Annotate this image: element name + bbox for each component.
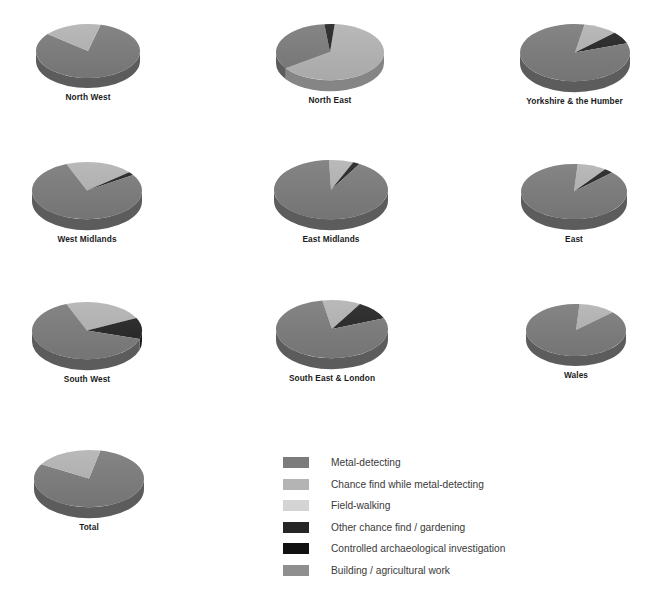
pie-graphic — [34, 22, 142, 90]
legend-item: Field-walking — [283, 495, 623, 517]
pie-label: South West — [28, 374, 146, 384]
pie-graphic — [272, 158, 390, 232]
pie-sheen-overlay — [276, 24, 384, 80]
pie-cell: North East — [272, 22, 388, 105]
legend-item: Chance find while metal-detecting — [283, 474, 623, 496]
pie-svg — [519, 162, 629, 232]
pie-graphic — [524, 302, 628, 368]
pie-graphic — [30, 300, 144, 372]
pie-svg — [518, 22, 632, 94]
pie-sheen-overlay — [34, 450, 144, 507]
legend-swatch — [283, 543, 309, 554]
pie-svg — [274, 22, 386, 93]
legend-swatch — [283, 500, 309, 511]
pie-sheen-overlay — [276, 300, 388, 358]
pie-svg — [30, 300, 144, 372]
pie-graphic — [519, 162, 629, 232]
legend-swatch — [283, 479, 309, 490]
legend-swatch — [283, 457, 309, 468]
pie-svg — [272, 158, 390, 232]
legend-label: Controlled archaeological investigation — [331, 543, 505, 554]
pie-svg — [34, 22, 142, 90]
pie-label: South East & London — [272, 373, 392, 383]
pie-sheen-overlay — [520, 24, 630, 81]
legend-label: Chance find while metal-detecting — [331, 479, 484, 490]
pie-label: Total — [30, 522, 148, 532]
pie-graphic — [274, 22, 386, 93]
pie-cell: Total — [30, 448, 148, 532]
pie-label: East — [517, 234, 631, 244]
legend-swatch — [283, 565, 309, 576]
legend-item: Building / agricultural work — [283, 560, 623, 582]
pie-sheen-overlay — [36, 24, 140, 78]
chart-legend: Metal-detectingChance find while metal-d… — [283, 452, 623, 581]
pie-graphic — [274, 298, 390, 371]
legend-label: Other chance find / gardening — [331, 522, 465, 533]
legend-label: Building / agricultural work — [331, 565, 450, 576]
pie-label: Wales — [522, 370, 630, 380]
pie-label: West Midlands — [28, 234, 146, 244]
pie-svg — [30, 160, 144, 232]
pie-label: North East — [272, 95, 388, 105]
pie-cell: North West — [32, 22, 144, 102]
pie-svg — [524, 302, 628, 368]
pie-cell: East Midlands — [270, 158, 392, 244]
pie-sheen-overlay — [274, 160, 388, 219]
pie-label: East Midlands — [270, 234, 392, 244]
legend-label: Field-walking — [331, 500, 390, 511]
pie-sheen-overlay — [526, 304, 626, 356]
pie-cell: Yorkshire & the Humber — [515, 22, 634, 106]
legend-swatch — [283, 522, 309, 533]
legend-item: Controlled archaeological investigation — [283, 538, 623, 560]
pie-graphic — [32, 448, 146, 520]
legend-label: Metal-detecting — [331, 457, 401, 468]
pie-cell: East — [517, 162, 631, 244]
pie-sheen-overlay — [32, 162, 142, 219]
pie-graphic — [518, 22, 632, 94]
pie-sheen-overlay — [32, 302, 142, 359]
pie-graphic — [30, 160, 144, 232]
pie-label: Yorkshire & the Humber — [515, 96, 634, 106]
pie-cell: South West — [28, 300, 146, 384]
legend-item: Metal-detecting — [283, 452, 623, 474]
pie-cell: South East & London — [272, 298, 392, 383]
pie-svg — [32, 448, 146, 520]
pie-cell: West Midlands — [28, 160, 146, 244]
pie-svg — [274, 298, 390, 371]
pie-label: North West — [32, 92, 144, 102]
pie-sheen-overlay — [521, 164, 627, 219]
pie-cell: Wales — [522, 302, 630, 380]
legend-item: Other chance find / gardening — [283, 517, 623, 539]
